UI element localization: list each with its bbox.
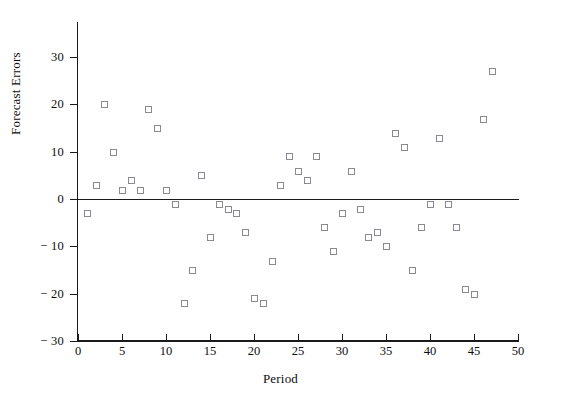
y-axis-tick-label: 20 bbox=[22, 98, 64, 111]
y-axis-tick bbox=[70, 152, 78, 153]
y-axis-tick-label: − 30 bbox=[22, 335, 64, 348]
x-axis-tick-label: 20 bbox=[239, 345, 269, 358]
data-point bbox=[269, 258, 276, 265]
data-point bbox=[409, 267, 416, 274]
scatter-plot-figure: 3020100− 10− 20− 30 05101520253035404550… bbox=[0, 0, 561, 402]
data-point bbox=[251, 295, 258, 302]
y-axis-tick bbox=[70, 246, 78, 247]
data-point bbox=[93, 182, 100, 189]
data-point bbox=[154, 125, 161, 132]
data-point bbox=[119, 187, 126, 194]
data-point bbox=[198, 172, 205, 179]
y-axis-tick bbox=[70, 294, 78, 295]
y-axis-tick bbox=[70, 341, 78, 342]
data-point bbox=[392, 130, 399, 137]
data-point bbox=[383, 243, 390, 250]
data-point bbox=[110, 149, 117, 156]
data-point bbox=[260, 300, 267, 307]
data-point bbox=[137, 187, 144, 194]
data-point bbox=[181, 300, 188, 307]
y-axis-tick bbox=[70, 104, 78, 105]
data-point bbox=[365, 234, 372, 241]
x-axis-tick-label: 25 bbox=[283, 345, 313, 358]
data-point bbox=[101, 101, 108, 108]
data-point bbox=[286, 153, 293, 160]
x-axis-tick-label: 40 bbox=[415, 345, 445, 358]
data-point bbox=[163, 187, 170, 194]
x-axis-tick bbox=[518, 334, 519, 341]
data-point bbox=[233, 210, 240, 217]
data-point bbox=[189, 267, 196, 274]
data-point bbox=[489, 68, 496, 75]
data-point bbox=[304, 177, 311, 184]
x-axis-tick-label: 50 bbox=[503, 345, 533, 358]
data-point bbox=[277, 182, 284, 189]
x-axis-tick-label: 0 bbox=[63, 345, 93, 358]
y-axis-tick bbox=[70, 57, 78, 58]
data-point bbox=[357, 206, 364, 213]
data-point bbox=[471, 291, 478, 298]
data-point bbox=[453, 224, 460, 231]
data-point bbox=[225, 206, 232, 213]
y-axis-tick-label: 10 bbox=[22, 146, 64, 159]
x-axis-tick-label: 30 bbox=[327, 345, 357, 358]
y-axis-tick-label: − 20 bbox=[22, 288, 64, 301]
data-point bbox=[216, 201, 223, 208]
x-axis-tick-label: 5 bbox=[107, 345, 137, 358]
data-point bbox=[242, 229, 249, 236]
data-point bbox=[436, 135, 443, 142]
y-axis-tick-label: 0 bbox=[22, 193, 64, 206]
y-axis-title: Forecast Errors bbox=[8, 52, 24, 135]
data-point bbox=[445, 201, 452, 208]
data-point bbox=[145, 106, 152, 113]
x-axis-tick-label: 15 bbox=[195, 345, 225, 358]
data-point bbox=[374, 229, 381, 236]
x-axis-title: Period bbox=[0, 371, 561, 387]
data-point bbox=[348, 168, 355, 175]
data-point bbox=[207, 234, 214, 241]
y-axis-tick-label: 30 bbox=[22, 51, 64, 64]
data-point bbox=[339, 210, 346, 217]
data-point bbox=[418, 224, 425, 231]
data-point bbox=[84, 210, 91, 217]
data-point bbox=[462, 286, 469, 293]
data-point bbox=[172, 201, 179, 208]
x-axis-tick-label: 35 bbox=[371, 345, 401, 358]
x-axis-tick-label: 45 bbox=[459, 345, 489, 358]
data-point bbox=[321, 224, 328, 231]
data-point bbox=[313, 153, 320, 160]
data-point bbox=[427, 201, 434, 208]
data-point bbox=[480, 116, 487, 123]
data-point bbox=[295, 168, 302, 175]
x-axis-tick-label: 10 bbox=[151, 345, 181, 358]
y-axis-tick-label: − 10 bbox=[22, 240, 64, 253]
data-point bbox=[330, 248, 337, 255]
data-point bbox=[401, 144, 408, 151]
y-axis-tick bbox=[70, 199, 78, 200]
plot-area bbox=[78, 57, 518, 341]
data-point bbox=[128, 177, 135, 184]
